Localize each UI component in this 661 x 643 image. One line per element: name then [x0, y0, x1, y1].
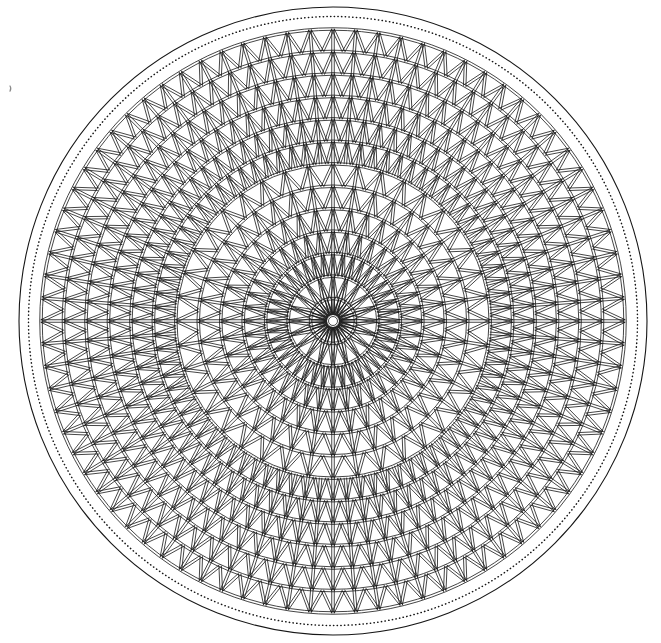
- dome-plan-diagram: [0, 0, 661, 643]
- page: [0, 0, 661, 643]
- stray-mark: [10, 86, 11, 91]
- hub-circle: [329, 317, 338, 326]
